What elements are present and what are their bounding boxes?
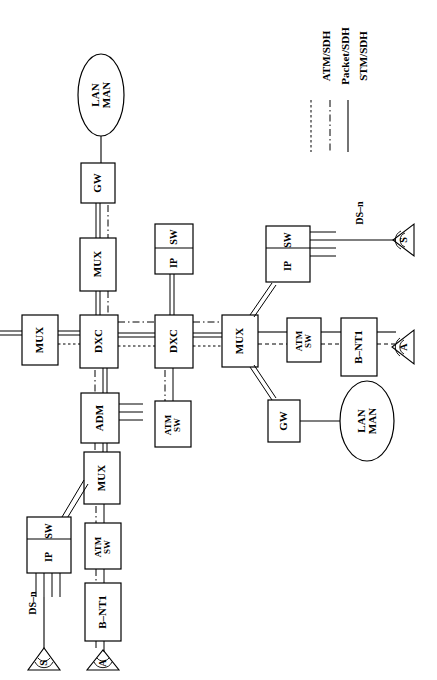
edge-muxc-ipswr-stm-a (250, 283, 272, 315)
box-mux-center (222, 315, 258, 367)
box-ip-sw-right (266, 226, 310, 282)
box-dxc-1 (80, 315, 118, 368)
box-atm-sw-mid (155, 401, 191, 447)
edge-muxc-ipswr-stm-b (254, 285, 276, 317)
network-diagram-canvas: .sld{stroke:#000;stroke-width:1.1;fill:n… (0, 0, 437, 680)
box-b-nt1-right (341, 318, 377, 376)
edge-muxc-gwr-stm-b (254, 365, 276, 398)
ellipse-lan-man-top (78, 54, 124, 136)
box-ip-sw-mid (155, 224, 193, 274)
box-atm-sw-bottom (85, 523, 121, 569)
box-gw-right (268, 400, 300, 442)
terminal-antenna-a-right (392, 330, 414, 364)
box-adm (81, 393, 119, 443)
box-mux-bottom (84, 452, 120, 504)
edge-muxc-gwr-stm-a (250, 367, 272, 400)
box-gw-top (81, 163, 115, 203)
edge-muxb-ipswb-stm-a (62, 480, 84, 517)
box-dxc-2 (155, 315, 193, 368)
terminal-antenna-a-bottom (87, 650, 119, 670)
box-mux-top (80, 238, 116, 291)
ellipse-lan-man-right (340, 381, 394, 461)
terminal-antenna-s-bottom (28, 648, 60, 670)
box-b-nt1-bottom (85, 583, 121, 641)
box-mux-left (22, 315, 58, 365)
terminal-antenna-s-right (393, 224, 414, 256)
diagram-vector-layer: .sld{stroke:#000;stroke-width:1.1;fill:n… (0, 0, 437, 680)
box-ip-sw-bottom (27, 517, 71, 573)
box-atm-sw-right (287, 318, 321, 362)
